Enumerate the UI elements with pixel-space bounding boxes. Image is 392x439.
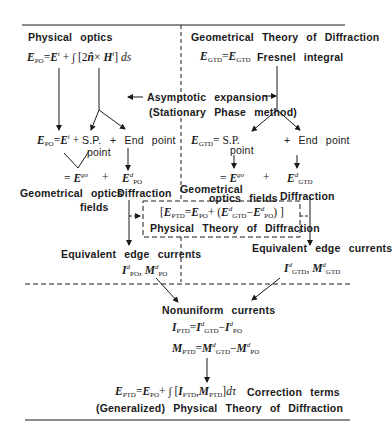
gtd-sp-point-label: point [230,144,254,156]
stationary-phase-label: (Stationary Phase method) [149,106,297,118]
po-diff-term: EdPO [122,171,142,186]
gtd-plus: + [263,171,270,183]
arrow-end [99,110,125,129]
correction-terms-label: Correction terms [247,386,340,398]
gtd-formula: EGTD=EGTD [200,50,251,64]
final-formula: EPTD=EPO+ ∫ [IPTD,MPTD]dτ [115,385,236,399]
po-plus: + [102,171,109,183]
gtd-end-point-label: + End point [284,134,350,146]
asymptotic-expansion-label: Asymptotic expansion [147,91,268,103]
po-formula: EPO=Ei + ∫ [2n̂× Hi] ds [27,50,131,65]
gtd-diff-label: Diffraction [280,190,335,202]
line-converge-left [64,153,78,168]
po-eec-label: Equivalent edge currents [61,248,201,260]
nonuniform-currents-label: Nonuniform currents [162,304,275,316]
po-go-term: = Ego [64,171,88,184]
po-go-label: Geometrical optics [20,187,123,199]
ptd-box-formula: [EPTD=EPO+ (EdGTD−EdPO) ] [160,205,284,220]
gtd-title: Geometrical Theory of Diffraction [191,31,379,43]
po-end-point-label: + End point [110,134,176,146]
physical-optics-title: Physical optics [28,31,112,43]
arrow-po-eec-to-nonuniform [156,278,178,302]
arrow-gtd-eec-to-nonuniform [252,278,280,300]
po-expansion-lhs: EPO=Ei + [37,133,79,148]
gtd-eec-label: Equivalent edge currents [252,242,392,254]
gtd-fresnel-label: Fresnel integral [257,51,343,63]
i-ptd-formula: IPTD=IdGTD−IdPO [172,320,242,335]
gtd-diff-term: EdGTD [287,171,313,186]
gtd-go-label-fields: optics fields [209,192,278,204]
po-diff-label: Diffraction [117,187,172,199]
ptd-box-label: Physical Theory of Diffraction [150,222,320,234]
po-sp-point-label: point [87,146,111,158]
m-ptd-formula: MPTD=MdGTD−MdPO [172,341,259,356]
generalized-ptd-label: (Generalized) Physical Theory of Diffrac… [96,402,343,414]
po-sp-label: S.P. [82,134,101,146]
po-go-label-fields: fields [80,201,109,213]
gtd-eec-values: IdGTD, MdGTD [284,261,340,276]
arrow-sp [91,110,99,130]
po-eec-values: IdPO, MdPO [122,263,167,278]
